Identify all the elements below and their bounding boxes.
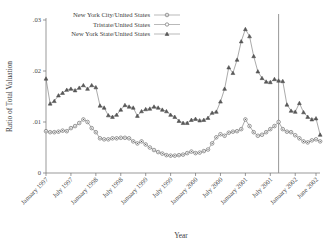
marker-circle-dot-center [178, 155, 179, 156]
marker-circle-dot-center [241, 129, 242, 130]
marker-triangle [57, 94, 61, 97]
marker-circle-dot-center [158, 151, 159, 152]
marker-triangle [297, 101, 301, 104]
marker-triangle [260, 76, 264, 79]
marker-circle-dot-center [207, 149, 208, 150]
marker-circle-dot-center [83, 119, 84, 120]
marker-circle-dot-center [54, 132, 55, 133]
marker-triangle [160, 108, 164, 111]
x-tick-label: July 1997 [51, 175, 75, 199]
marker-circle-dot-center [74, 125, 75, 126]
marker-triangle [273, 77, 277, 80]
marker-circle-dot-center [203, 150, 204, 151]
marker-circle-dot-center [104, 139, 105, 140]
marker-circle-dot-center [45, 131, 46, 132]
marker-triangle [285, 103, 289, 106]
marker-circle-dot-center [274, 125, 275, 126]
marker-triangle [202, 118, 206, 121]
series-3 [44, 27, 322, 136]
x-tick-label: July 1999 [151, 175, 175, 199]
marker-circle-dot-center [282, 129, 283, 130]
marker-circle-dot-center [216, 137, 217, 138]
x-tick-label: January 1998 [69, 175, 99, 205]
marker-triangle [252, 54, 256, 57]
marker-circle-dot-center [182, 154, 183, 155]
chart-canvas: 0.01.02.03Ratio of Total ValuationJanuar… [0, 0, 325, 250]
marker-circle-dot-center [137, 143, 138, 144]
marker-triangle [94, 85, 98, 88]
marker-circle-dot-center [187, 153, 188, 154]
y-tick-label: .02 [33, 67, 41, 74]
marker-circle-dot-center [290, 132, 291, 133]
marker-circle-dot-center [191, 151, 192, 152]
marker-circle-dot-center [58, 131, 59, 132]
x-tick-label: July 2000 [200, 175, 224, 199]
marker-triangle [227, 66, 231, 69]
marker-circle-dot-center [62, 130, 63, 131]
marker-circle-dot-center [232, 131, 233, 132]
marker-circle-dot-center [212, 143, 213, 144]
marker-triangle [90, 83, 94, 86]
x-tick-label: January 2000 [169, 175, 199, 205]
x-axis-title: Year [174, 231, 188, 240]
marker-triangle [219, 100, 223, 103]
marker-circle-dot-center [149, 147, 150, 148]
x-tick-label: June 2002 [295, 176, 319, 200]
marker-circle-dot-center [124, 137, 125, 138]
marker-circle-dot-center [79, 122, 80, 123]
marker-circle-dot-center [170, 155, 171, 156]
legend-label: New York State/United States [71, 30, 150, 37]
marker-circle-open [165, 23, 168, 26]
marker-circle-dot-center [87, 121, 88, 122]
marker-circle-dot-center [307, 142, 308, 143]
marker-triangle [44, 77, 48, 80]
marker-triangle [314, 117, 318, 120]
marker-triangle [123, 103, 127, 106]
x-tick-label: July 1998 [101, 175, 125, 199]
marker-triangle [243, 27, 247, 30]
marker-circle-dot-center [228, 132, 229, 133]
marker-triangle [102, 106, 106, 109]
marker-circle-dot-center [91, 128, 92, 129]
marker-circle-dot-center [166, 14, 167, 15]
marker-circle-dot-center [141, 141, 142, 142]
marker-circle-dot-center [174, 155, 175, 156]
marker-triangle [48, 102, 52, 105]
marker-triangle [140, 109, 144, 112]
marker-circle-dot-center [95, 132, 96, 133]
marker-circle-dot-center [108, 139, 109, 140]
marker-circle-dot-center [303, 141, 304, 142]
marker-circle-dot-center [50, 132, 51, 133]
marker-circle-dot-center [261, 134, 262, 135]
marker-triangle [148, 107, 152, 110]
marker-triangle [77, 86, 81, 89]
marker-triangle [81, 83, 85, 86]
marker-circle-dot-center [153, 149, 154, 150]
legend-label: New York City/United States [73, 11, 150, 18]
marker-circle-dot-center [195, 153, 196, 154]
y-axis-title: Ratio of Total Valuation [5, 61, 14, 132]
marker-triangle [152, 105, 156, 108]
marker-triangle [289, 109, 293, 112]
marker-circle-dot-center [249, 125, 250, 126]
marker-circle-dot-center [311, 140, 312, 141]
marker-circle-dot-center [236, 131, 237, 132]
marker-triangle [248, 34, 252, 37]
marker-circle-dot-center [286, 131, 287, 132]
marker-triangle [256, 70, 260, 73]
x-tick-label: July 2001 [250, 176, 273, 199]
marker-circle-dot-center [116, 138, 117, 139]
marker-circle-dot-center [66, 131, 67, 132]
marker-triangle [194, 117, 198, 120]
y-tick-label: .01 [33, 118, 41, 125]
marker-circle-dot-center [128, 138, 129, 139]
marker-triangle [214, 110, 218, 113]
marker-triangle [318, 133, 322, 136]
marker-circle-dot-center [270, 129, 271, 130]
marker-circle-dot-center [315, 139, 316, 140]
marker-triangle [106, 113, 110, 116]
marker-triangle [98, 104, 102, 107]
marker-triangle [173, 115, 177, 118]
chart-legend: New York City/United StatesTristate/Unit… [71, 11, 180, 37]
x-tick-label: January 1999 [119, 175, 149, 205]
